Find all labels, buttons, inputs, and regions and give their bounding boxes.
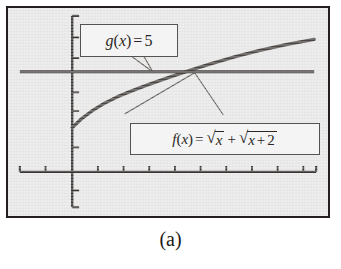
leader-line-f-upper (195, 73, 224, 115)
plot-frame: g(x) = 5 f(x) = √ x + √ x+2 (6, 6, 330, 218)
figure-container: g(x) = 5 f(x) = √ x + √ x+2 (a) (0, 0, 341, 269)
g-value: 5 (144, 33, 152, 49)
g-function-name: g (106, 33, 114, 49)
callout-f-label: f(x) = √ x + √ x+2 (130, 123, 320, 155)
f-variable: x (181, 132, 188, 147)
radicand-second: x+2 (247, 131, 277, 148)
g-variable: x (119, 33, 126, 49)
callout-g-label: g(x) = 5 (80, 24, 178, 57)
radicand-first: x (215, 131, 225, 148)
radical-second: √ x+2 (239, 131, 277, 148)
g-equation: g(x) = 5 (106, 33, 153, 49)
f-equals-sign: = (193, 132, 205, 147)
f-equation: f(x) = √ x + √ x+2 (172, 131, 278, 148)
g-equals-sign: = (131, 33, 144, 49)
f-plus-sign: + (225, 132, 237, 147)
figure-caption: (a) (0, 228, 341, 251)
radical-first: √ x (207, 131, 225, 148)
